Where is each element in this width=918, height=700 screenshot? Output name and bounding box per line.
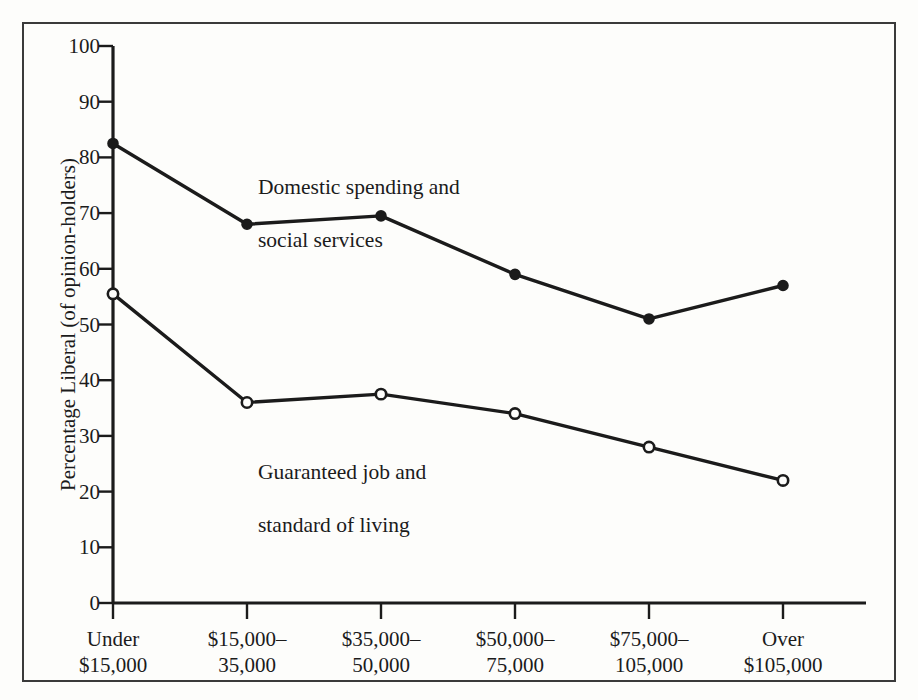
data-point-marker	[510, 408, 520, 418]
series-2	[108, 289, 788, 486]
data-point-marker	[242, 397, 252, 407]
plot-area	[0, 0, 918, 700]
data-series-layer	[108, 138, 788, 485]
data-point-marker	[644, 314, 654, 324]
data-point-marker	[108, 289, 118, 299]
y-axis-ticks	[99, 46, 113, 603]
data-point-marker	[510, 269, 520, 279]
data-point-marker	[376, 211, 386, 221]
series-line	[113, 294, 783, 481]
data-point-marker	[778, 281, 788, 291]
data-point-marker	[376, 389, 386, 399]
data-point-marker	[644, 442, 654, 452]
data-point-marker	[108, 138, 118, 148]
data-point-marker	[242, 219, 252, 229]
chart-figure: Percentage Liberal (of opinion-holders) …	[0, 0, 918, 700]
axis-lines	[113, 46, 866, 603]
data-point-marker	[778, 475, 788, 485]
x-axis-ticks	[113, 603, 783, 619]
series-1	[108, 138, 788, 323]
series-line	[113, 143, 783, 318]
